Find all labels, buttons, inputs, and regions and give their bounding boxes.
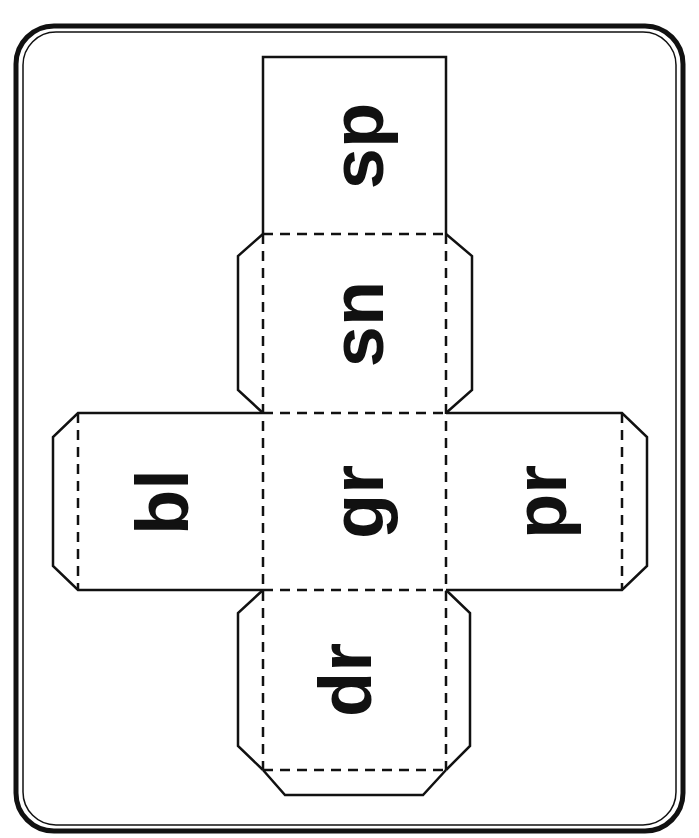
face-label-center: gr <box>316 465 399 539</box>
face-label-bottom: dr <box>304 643 387 717</box>
face-label-upper: sn <box>316 281 399 367</box>
face-label-left: bl <box>121 469 204 535</box>
cube-net-worksheet: sp sn bl gr pr dr <box>0 0 699 838</box>
face-label-top: sp <box>316 103 399 189</box>
face-label-right: pr <box>499 465 582 539</box>
